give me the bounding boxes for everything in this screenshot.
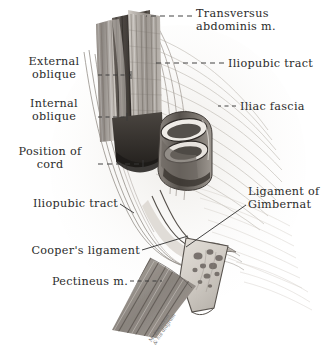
- label-position-of-cord: Position of cord: [6, 146, 94, 171]
- anatomy-illustration: [0, 0, 334, 347]
- label-iliopubic-tract-upper: Iliopubic tract: [228, 58, 313, 71]
- anatomy-plate: Transversus abdominis m. Iliopubic tract…: [0, 0, 334, 347]
- label-internal-oblique: Internal oblique: [14, 98, 94, 123]
- label-transversus-abdominis: Transversus abdominis m.: [196, 8, 276, 33]
- label-coopers-ligament: Cooper's ligament: [6, 245, 140, 258]
- label-pectineus: Pectineus m.: [18, 276, 128, 289]
- label-iliopubic-tract-lower: Iliopubic tract: [8, 198, 118, 211]
- label-iliac-fascia: Iliac fascia: [240, 101, 305, 114]
- label-ligament-of-gimbernat: Ligament of Gimbernat: [248, 186, 320, 211]
- label-external-oblique: External oblique: [14, 56, 94, 81]
